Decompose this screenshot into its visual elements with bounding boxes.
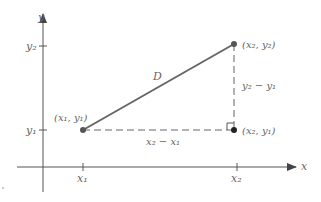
y2-tick-label: y₂	[25, 40, 37, 53]
point-x2-y2	[231, 41, 237, 47]
x1-tick-label: x₁	[77, 172, 88, 185]
point-x2-y1-label: (x₂, y₁)	[242, 125, 276, 136]
point-x2-y1	[231, 127, 237, 133]
x-axis-label: x	[301, 160, 308, 173]
point-x1-y1	[80, 127, 86, 133]
x2-tick-label: x₂	[231, 172, 242, 185]
stray-mark	[2, 187, 4, 189]
y1-tick-label: y₁	[25, 124, 37, 137]
horizontal-leg-label: x₂ − x₁	[146, 136, 180, 147]
distance-segment	[83, 44, 234, 130]
vertical-leg-label: y₂ − y₁	[241, 80, 276, 91]
y-axis-label: y	[37, 11, 45, 24]
distance-diagram: x y y₂ y₁ x₁ x₂ (x₁, y₁) (x₂, y₂) (x₂, y…	[0, 0, 321, 202]
point-x2-y2-label: (x₂, y₂)	[242, 39, 276, 50]
distance-label: D	[152, 70, 162, 83]
point-x1-y1-label: (x₁, y₁)	[54, 112, 88, 123]
